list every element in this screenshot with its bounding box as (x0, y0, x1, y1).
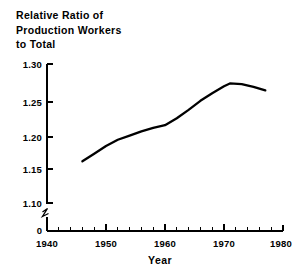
x-axis-major-ticks (106, 224, 224, 231)
x-axis-title: Year (148, 254, 172, 266)
y-axis-ticks (47, 102, 53, 203)
chart-plot-area: 1.30 1.25 1.20 1.15 1.10 0 1940 1950 196… (0, 0, 292, 269)
data-series-line (82, 83, 265, 161)
x-tick-label-1980: 1980 (270, 238, 292, 249)
y-tick-label-1-30: 1.30 (23, 59, 42, 70)
y-tick-label-1-15: 1.15 (23, 164, 43, 175)
y-tick-label-1-20: 1.20 (23, 132, 42, 143)
chart-figure: Relative Ratio of Production Workers to … (0, 0, 292, 269)
x-tick-label-1940: 1940 (36, 238, 58, 249)
y-axis-zero-label: 0 (37, 225, 42, 236)
y-tick-label-1-10: 1.10 (23, 198, 42, 209)
x-tick-label-1960: 1960 (154, 238, 176, 249)
x-tick-label-1970: 1970 (213, 238, 235, 249)
y-tick-label-1-25: 1.25 (23, 97, 43, 108)
y-axis-break-icon (43, 209, 49, 217)
x-tick-label-1950: 1950 (95, 238, 117, 249)
